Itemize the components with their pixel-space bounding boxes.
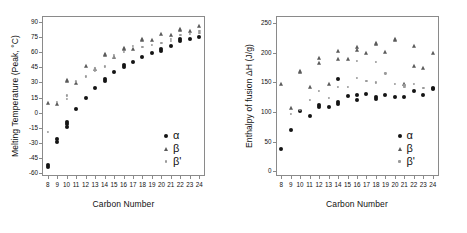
data-point-circle xyxy=(55,137,59,141)
x-tick-mark xyxy=(300,176,301,179)
x-tick-mark xyxy=(180,176,181,179)
legend-item[interactable]: β xyxy=(394,142,415,155)
data-point-circle xyxy=(84,96,88,100)
data-point-circle xyxy=(46,163,50,167)
data-point-triangle xyxy=(159,32,163,36)
data-point-circle xyxy=(131,60,135,64)
data-point-triangle xyxy=(150,38,154,42)
data-point-triangle xyxy=(140,38,144,42)
y-tick-mark xyxy=(39,143,42,144)
legend-label: β xyxy=(172,143,179,154)
x-tick-mark xyxy=(86,176,87,179)
data-point-circle xyxy=(383,93,387,97)
data-point-circle xyxy=(308,114,312,118)
data-point-triangle xyxy=(421,65,425,69)
y-tick-mark xyxy=(273,82,276,83)
data-point-triangle xyxy=(46,100,50,104)
data-point-triangle xyxy=(317,60,321,64)
data-point-triangle xyxy=(178,28,182,32)
data-point-triangle xyxy=(412,63,416,67)
data-point-circle xyxy=(374,97,378,101)
y-tick-mark xyxy=(273,53,276,54)
data-point-triangle xyxy=(346,56,350,60)
data-point-triangle xyxy=(374,42,378,46)
data-point-circle xyxy=(402,95,406,99)
data-point-triangle xyxy=(336,49,340,53)
y-tick-mark xyxy=(39,52,42,53)
y-tick-mark xyxy=(39,82,42,83)
data-point-circle xyxy=(150,51,154,55)
data-point-triangle xyxy=(393,38,397,42)
x-tick-mark xyxy=(366,176,367,179)
legend: αββ' xyxy=(160,129,181,168)
x-tick-mark xyxy=(48,176,49,179)
x-tick-mark xyxy=(152,176,153,179)
x-tick-label: 24 xyxy=(424,181,442,188)
x-tick-mark xyxy=(357,176,358,179)
legend-label: α xyxy=(406,130,413,141)
x-tick-mark xyxy=(133,176,134,179)
data-point-circle xyxy=(140,55,144,59)
data-point-circle xyxy=(169,44,173,48)
y-tick-mark xyxy=(39,37,42,38)
panel-enthalpy-of-fusion: 0501001502002508910111213141516171819202… xyxy=(234,0,467,233)
data-point-circle xyxy=(317,105,321,109)
data-point-circle xyxy=(421,93,425,97)
data-point-circle xyxy=(188,37,192,41)
legend-item[interactable]: β xyxy=(160,142,181,155)
x-tick-mark xyxy=(124,176,125,179)
data-point-triangle xyxy=(327,82,331,86)
y-tick-mark xyxy=(39,67,42,68)
x-tick-mark xyxy=(319,176,320,179)
legend-marker-circle-icon xyxy=(394,130,406,142)
data-point-circle xyxy=(178,37,182,41)
data-point-circle xyxy=(431,87,435,91)
y-tick-mark xyxy=(39,173,42,174)
data-point-circle xyxy=(289,128,293,132)
x-tick-mark xyxy=(310,176,311,179)
x-tick-mark xyxy=(281,176,282,179)
x-tick-mark xyxy=(433,176,434,179)
data-point-triangle xyxy=(336,56,340,60)
data-point-circle xyxy=(393,95,397,99)
data-point-circle xyxy=(355,93,359,97)
y-tick-mark xyxy=(273,171,276,172)
legend-item[interactable]: α xyxy=(394,129,415,142)
x-tick-mark xyxy=(338,176,339,179)
x-tick-mark xyxy=(395,176,396,179)
legend-label: β' xyxy=(406,156,415,167)
legend-marker-triangle-icon xyxy=(160,143,172,155)
data-point-triangle xyxy=(317,56,321,60)
x-tick-mark xyxy=(67,176,68,179)
legend-item[interactable]: α xyxy=(160,129,181,142)
x-tick-mark xyxy=(57,176,58,179)
data-point-triangle xyxy=(355,47,359,51)
x-axis-title: Carbon Number xyxy=(276,199,439,209)
data-point-circle xyxy=(364,92,368,96)
data-point-triangle xyxy=(298,70,302,74)
x-tick-mark xyxy=(105,176,106,179)
legend-item[interactable]: β' xyxy=(160,155,181,168)
legend-item[interactable]: β' xyxy=(394,155,415,168)
x-tick-mark xyxy=(161,176,162,179)
legend-marker-triangle-icon xyxy=(394,143,406,155)
x-tick-mark xyxy=(348,176,349,179)
y-tick-mark xyxy=(273,112,276,113)
legend: αββ' xyxy=(394,129,415,168)
x-tick-mark xyxy=(199,176,200,179)
data-point-circle xyxy=(103,79,107,83)
y-axis-title: Enthalpy of fusion ΔH (J/g) xyxy=(244,16,254,176)
legend-label: α xyxy=(172,130,179,141)
x-tick-mark xyxy=(142,176,143,179)
data-point-circle xyxy=(327,105,331,109)
y-tick-mark xyxy=(273,142,276,143)
data-point-triangle xyxy=(169,33,173,37)
x-tick-mark xyxy=(171,176,172,179)
data-point-circle xyxy=(355,98,359,102)
data-point-triangle xyxy=(131,47,135,51)
x-tick-mark xyxy=(423,176,424,179)
data-point-circle xyxy=(122,63,126,67)
y-tick-mark xyxy=(39,128,42,129)
data-point-triangle xyxy=(289,106,293,110)
y-axis-title: Melting Temperature (Peak, °C) xyxy=(10,16,20,176)
